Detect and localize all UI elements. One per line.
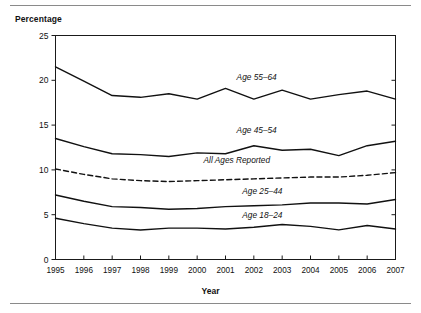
x-tick-label: 2001 (216, 266, 235, 275)
plot-frame (56, 36, 396, 260)
series-line-0 (56, 67, 396, 99)
series-label-2: All Ages Reported (203, 155, 271, 165)
y-tick-label: 20 (39, 75, 49, 85)
x-tick-label: 1996 (75, 266, 94, 275)
x-tick-label: 2006 (358, 266, 377, 275)
x-tick-label: 2002 (245, 266, 264, 275)
series-label-4: Age 18–24 (241, 210, 283, 220)
y-tick-labels: 0510152025 (39, 31, 49, 265)
series-label-0: Age 55–64 (236, 72, 278, 82)
x-tick-label: 2000 (188, 266, 207, 275)
y-tick-label: 0 (44, 255, 49, 265)
x-tick-label: 2005 (330, 266, 349, 275)
x-tick-label: 1998 (131, 266, 150, 275)
series-lines (56, 67, 396, 230)
y-tick-label: 5 (44, 210, 49, 220)
x-axis-ticks (56, 256, 396, 260)
series-line-4 (56, 218, 396, 230)
x-tick-labels: 1995199619971998199920002001200220032004… (46, 266, 405, 275)
figure-container: Percentage Year 0510152025 1995199619971… (0, 0, 421, 313)
series-line-3 (56, 195, 396, 209)
series-label-3: Age 25–44 (241, 186, 283, 196)
y-tick-label: 10 (39, 165, 49, 175)
y-tick-label: 15 (39, 120, 49, 130)
x-tick-label: 1999 (160, 266, 179, 275)
x-tick-label: 2007 (386, 266, 405, 275)
x-tick-label: 1997 (103, 266, 122, 275)
series-label-1: Age 45–54 (236, 125, 278, 135)
y-tick-label: 25 (39, 31, 49, 41)
line-chart-plot: 0510152025 19951996199719981999200020012… (0, 0, 421, 313)
series-line-2 (56, 169, 396, 182)
y-axis-ticks (52, 36, 396, 260)
x-tick-label: 2003 (273, 266, 292, 275)
x-tick-label: 1995 (46, 266, 65, 275)
x-tick-label: 2004 (301, 266, 320, 275)
